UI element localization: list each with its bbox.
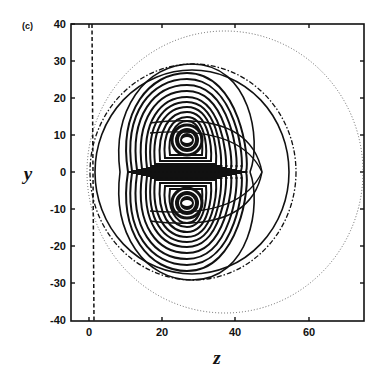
y-axis-title: y: [22, 163, 33, 184]
x-tick-40: 40: [229, 326, 241, 338]
y-tick-10: 10: [54, 129, 66, 141]
x-tick-labels: 0 20 40 60: [86, 326, 315, 338]
y-tick-neg10: -10: [50, 203, 66, 215]
y-tick-20: 20: [54, 92, 66, 104]
y-tick-neg20: -20: [50, 240, 66, 252]
y-tick-0: 0: [60, 166, 66, 178]
y-tick-30: 30: [54, 55, 66, 67]
dashed-vertical-line: [92, 24, 94, 321]
contour-figure: (c) 40 30 20 10 0 -10 -2: [0, 0, 380, 378]
x-tick-60: 60: [303, 326, 315, 338]
y-tick-neg30: -30: [50, 277, 66, 289]
y-tick-neg40: -40: [50, 314, 66, 326]
x-tick-0: 0: [86, 326, 92, 338]
upper-vortex-core: [182, 137, 192, 143]
x-tick-20: 20: [156, 326, 168, 338]
x-axis-title: z: [212, 347, 221, 368]
lower-lobe-contours: [126, 172, 247, 271]
panel-label: (c): [22, 21, 33, 31]
upper-lobe-contours: [126, 73, 247, 172]
y-tick-40: 40: [54, 18, 66, 30]
plot-area: [87, 24, 363, 321]
lower-vortex-core: [182, 200, 192, 206]
y-tick-labels: 40 30 20 10 0 -10 -20 -30 -40: [50, 18, 66, 326]
